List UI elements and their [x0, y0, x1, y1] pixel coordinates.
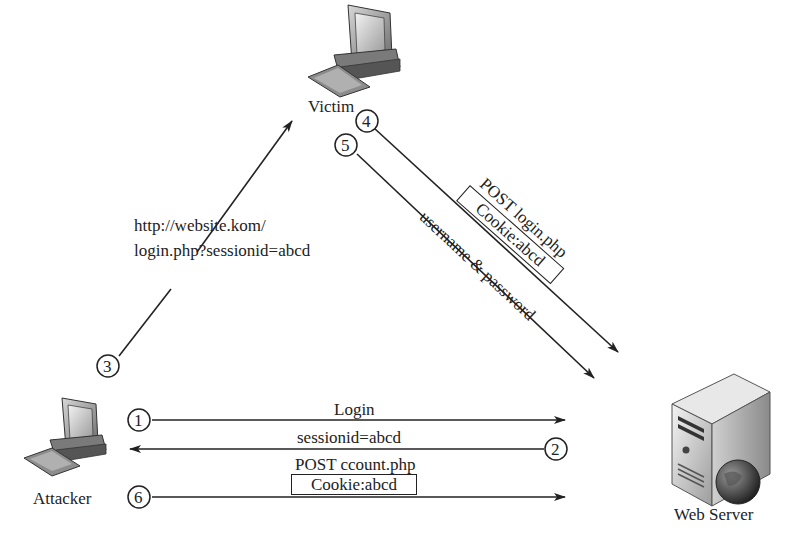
step-3-url-line1: http://website.kom/: [134, 217, 266, 234]
step-4-number: 4: [362, 113, 371, 130]
step-1-number: 1: [134, 412, 143, 429]
attacker-label: Attacker: [33, 489, 92, 509]
victim-computer-icon: [308, 5, 400, 97]
step-1-label: Login: [334, 401, 375, 418]
step-3-number: 3: [103, 358, 112, 375]
step-6-number: 6: [134, 489, 143, 506]
arrow-step-4: [374, 128, 618, 352]
step-6-label: POST ccount.php: [295, 456, 416, 473]
step-3-url-line2: login.php?sessionid=abcd: [134, 242, 310, 259]
attacker-computer-icon: [24, 398, 106, 476]
web-server-label: Web Server: [674, 505, 753, 525]
step-6-cookie-box: Cookie:abcd: [291, 474, 417, 495]
web-server-icon: [672, 374, 770, 506]
arrow-step-3: [119, 289, 171, 356]
step-2-number: 2: [551, 441, 560, 458]
step-2-label: sessionid=abcd: [297, 429, 401, 446]
step-5-number: 5: [341, 137, 350, 154]
victim-label: Victim: [308, 97, 354, 117]
